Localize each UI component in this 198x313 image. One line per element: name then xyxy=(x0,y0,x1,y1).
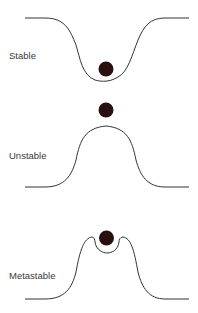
label-unstable: Unstable xyxy=(9,150,47,161)
unstable-curve xyxy=(25,126,189,187)
label-metastable: Metastable xyxy=(9,270,55,281)
metastable-curve xyxy=(25,237,189,299)
stable-ball xyxy=(99,62,114,77)
unstable-ball xyxy=(99,103,114,118)
label-stable: Stable xyxy=(9,50,36,61)
metastable-ball xyxy=(99,231,114,246)
